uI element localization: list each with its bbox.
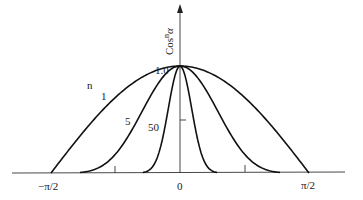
legend-n-label: n bbox=[87, 79, 93, 91]
y-max-label: 1.0 bbox=[155, 64, 169, 76]
cosine-power-chart: 1.0 −π/2 0 π/2 n 1 5 50 Cosnα bbox=[0, 0, 363, 200]
x-axis bbox=[12, 172, 345, 173]
x-max-label: π/2 bbox=[301, 179, 315, 191]
curve-1-label: 1 bbox=[101, 90, 107, 102]
y-axis-arrow-icon bbox=[177, 4, 183, 13]
y-axis-label: Cosnα bbox=[162, 28, 175, 55]
x-zero-label: 0 bbox=[177, 180, 183, 192]
curve-5-label: 5 bbox=[125, 115, 131, 127]
y-axis-label-base: Cos bbox=[163, 38, 175, 55]
x-min-label: −π/2 bbox=[38, 180, 58, 192]
y-axis-label-var: α bbox=[163, 28, 175, 34]
curve-50-label: 50 bbox=[148, 121, 160, 133]
svg-text:Cosnα: Cosnα bbox=[162, 28, 175, 55]
